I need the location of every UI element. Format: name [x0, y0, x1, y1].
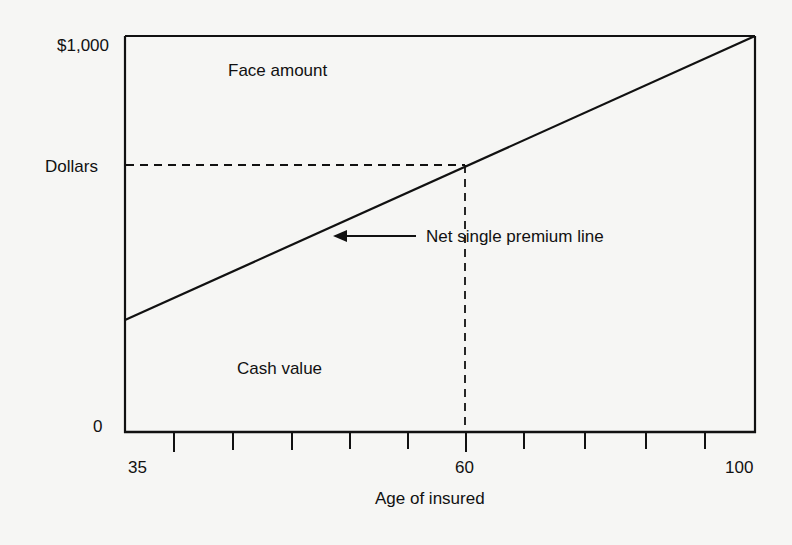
x-axis-title: Age of insured: [375, 489, 485, 508]
cash-value-label: Cash value: [237, 359, 322, 378]
x-axis-ticks: [174, 432, 705, 452]
x-end-label: 100: [725, 458, 753, 477]
face-amount-label: Face amount: [228, 61, 327, 80]
chart-canvas: $1,000 Dollars 0 Face amount Cash value …: [0, 0, 792, 545]
net-single-premium-label: Net single premium line: [426, 227, 604, 246]
arrow-left-icon: [333, 230, 416, 242]
x-start-label: 35: [128, 458, 147, 477]
y-top-label: $1,000: [57, 36, 109, 55]
y-zero-label: 0: [93, 417, 102, 436]
y-axis-title: Dollars: [45, 157, 98, 176]
x-mid-label: 60: [455, 458, 474, 477]
net-single-premium-line: [125, 36, 755, 320]
